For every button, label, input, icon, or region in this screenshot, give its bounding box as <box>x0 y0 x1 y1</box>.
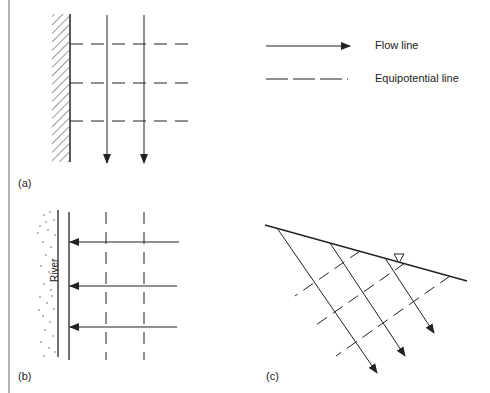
impermeable-wall-hatch <box>52 14 69 162</box>
flow-net-diagram <box>0 0 490 393</box>
legend <box>266 46 350 79</box>
panel-b <box>37 210 179 360</box>
equipotential-line <box>336 276 450 356</box>
legend-flow-line-label: Flow line <box>375 39 418 51</box>
panel-a-label: (a) <box>18 177 31 189</box>
sediment-dots <box>37 211 55 356</box>
panel-c-label: (c) <box>266 370 279 382</box>
panel-a <box>52 14 190 163</box>
panel-b-label: (b) <box>18 370 31 382</box>
flow-line <box>330 243 405 356</box>
equipotential-line <box>316 263 405 325</box>
river-label: River <box>49 259 60 282</box>
legend-equipotential-label: Equipotential line <box>375 72 459 84</box>
flow-line <box>277 228 377 373</box>
water-table-surface <box>265 225 467 281</box>
panel-c <box>265 225 467 373</box>
